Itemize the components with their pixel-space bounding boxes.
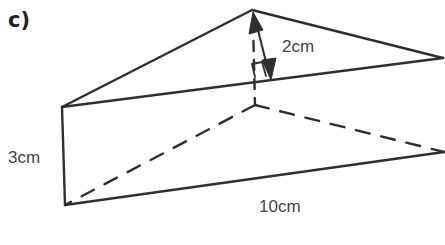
hidden-edge-right — [255, 105, 444, 152]
edge-top-right — [252, 10, 443, 58]
label-3cm: 3cm — [8, 148, 40, 168]
label-10cm: 10cm — [259, 197, 301, 217]
edge-top-left — [62, 10, 252, 107]
label-2cm: 2cm — [282, 37, 314, 57]
triangular-prism-diagram — [0, 0, 445, 245]
hidden-edge-left — [65, 105, 255, 205]
edge-left-vertical — [62, 107, 65, 205]
edge-bottom-front — [65, 152, 444, 205]
